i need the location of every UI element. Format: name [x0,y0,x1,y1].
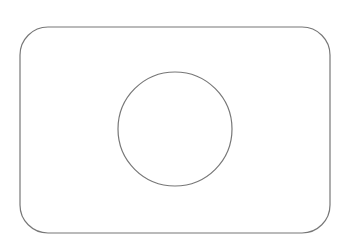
diagram-canvas [0,0,343,247]
rounded-rectangle [20,27,330,233]
circle [118,72,232,186]
